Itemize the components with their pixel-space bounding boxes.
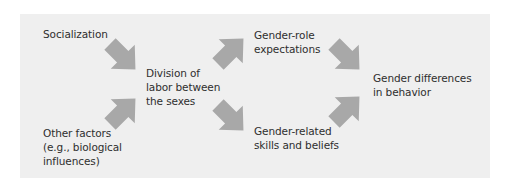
node-gender-role-expectations: Gender-role expectations — [254, 28, 320, 56]
arrow-expectations-to-differences-icon — [322, 32, 371, 81]
node-division-line-3: the sexes — [146, 94, 220, 108]
node-expectations-line-1: Gender-role — [254, 28, 320, 42]
node-expectations-line-2: expectations — [254, 42, 320, 56]
node-division-line-2: labor between — [146, 80, 220, 94]
node-other-factors-line-3: influences) — [43, 154, 122, 168]
node-socialization-line: Socialization — [43, 27, 108, 41]
node-gender-related-skills: Gender-related skills and beliefs — [254, 124, 339, 152]
node-skills-line-2: skills and beliefs — [254, 138, 339, 152]
node-skills-line-1: Gender-related — [254, 124, 339, 138]
node-gender-differences: Gender differences in behavior — [373, 71, 472, 99]
node-other-factors-line-1: Other factors — [43, 126, 122, 140]
node-division-of-labor: Division of labor between the sexes — [146, 66, 220, 108]
node-differences-line-1: Gender differences — [373, 71, 472, 85]
node-other-factors-line-2: (e.g., biological — [43, 140, 122, 154]
node-differences-line-2: in behavior — [373, 85, 472, 99]
node-division-line-1: Division of — [146, 66, 220, 80]
node-other-factors: Other factors (e.g., biological influenc… — [43, 126, 122, 168]
node-socialization: Socialization — [43, 27, 108, 41]
